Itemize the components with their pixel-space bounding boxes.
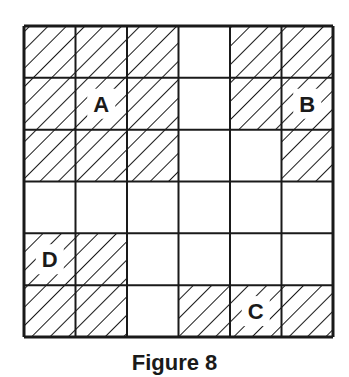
empty-cell <box>127 285 179 337</box>
empty-cell <box>127 233 179 285</box>
hatched-cell <box>24 78 76 130</box>
hatched-cell <box>24 285 76 337</box>
figure-caption: Figure 8 <box>0 350 349 376</box>
hatched-cell <box>76 233 128 285</box>
hatched-cell <box>282 130 334 182</box>
empty-cell <box>230 233 282 285</box>
hatched-cell <box>282 26 334 78</box>
empty-cell <box>282 233 334 285</box>
hatched-cell <box>127 78 179 130</box>
empty-cell <box>179 78 231 130</box>
empty-cell <box>230 130 282 182</box>
empty-cell <box>179 130 231 182</box>
empty-cell <box>76 182 128 234</box>
hatched-cell <box>127 26 179 78</box>
cell-label-c: C <box>248 299 264 324</box>
empty-cell <box>179 182 231 234</box>
hatched-cell <box>76 285 128 337</box>
grid-figure: ABCD <box>0 0 349 377</box>
empty-cell <box>230 182 282 234</box>
empty-cell <box>282 182 334 234</box>
hatched-cell <box>24 26 76 78</box>
empty-cell <box>179 233 231 285</box>
cell-label-d: D <box>42 247 58 272</box>
hatched-cell <box>127 130 179 182</box>
hatched-cell <box>282 285 334 337</box>
empty-cell <box>127 182 179 234</box>
cell-label-b: B <box>299 92 315 117</box>
hatched-cell <box>230 78 282 130</box>
hatched-cell <box>76 26 128 78</box>
cell-label-a: A <box>93 92 109 117</box>
hatched-cell <box>76 130 128 182</box>
empty-cell <box>24 182 76 234</box>
hatched-cell <box>24 130 76 182</box>
hatched-cell <box>230 26 282 78</box>
hatched-cell <box>179 285 231 337</box>
empty-cell <box>179 26 231 78</box>
